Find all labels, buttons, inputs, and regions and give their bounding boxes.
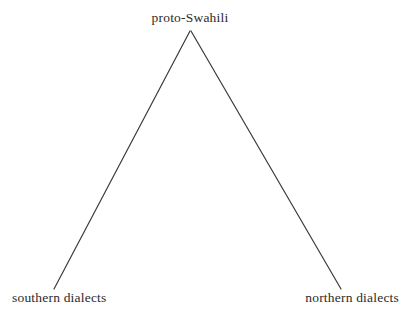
node-label-northern-dialects: northern dialects [305, 290, 399, 306]
language-tree-diagram: proto-Swahili southern dialects northern… [0, 0, 410, 317]
branch-line-northern [191, 31, 341, 289]
tree-branches [0, 0, 410, 317]
branch-line-southern [54, 31, 190, 289]
node-label-southern-dialects: southern dialects [12, 290, 107, 306]
node-label-root: proto-Swahili [152, 10, 229, 26]
